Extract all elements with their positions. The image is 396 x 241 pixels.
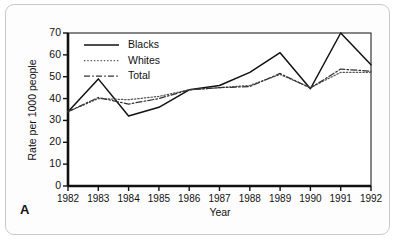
x-axis-tick-label: 1984 xyxy=(112,193,146,204)
y-axis-tick-label: 0 xyxy=(35,179,61,191)
legend-label-blacks: Blacks xyxy=(128,38,159,50)
x-axis-tick-label: 1989 xyxy=(263,193,297,204)
x-axis-tick-label: 1987 xyxy=(203,193,237,204)
y-axis-tick-label: 40 xyxy=(35,92,61,104)
plot-frame xyxy=(68,33,371,186)
x-axis-tick-label: 1990 xyxy=(293,193,327,204)
y-axis-tick-label: 30 xyxy=(35,113,61,125)
x-axis-tick-label: 1982 xyxy=(51,193,85,204)
y-axis-tick-label: 50 xyxy=(35,70,61,82)
x-axis-title: Year xyxy=(60,206,380,218)
x-axis-tick-label: 1985 xyxy=(142,193,176,204)
x-axis-tick-label: 1988 xyxy=(233,193,267,204)
y-axis-tick-label: 70 xyxy=(35,26,61,38)
legend-label-total: Total xyxy=(128,69,150,81)
y-axis-tick-label: 60 xyxy=(35,48,61,60)
axis-group xyxy=(63,33,371,191)
y-axis-tick-label: 10 xyxy=(35,157,61,169)
x-axis-tick-label: 1992 xyxy=(354,193,388,204)
x-axis-tick-label: 1983 xyxy=(81,193,115,204)
panel-label: A xyxy=(20,202,30,217)
x-axis-tick-label: 1991 xyxy=(324,193,358,204)
legend-label-whites: Whites xyxy=(128,54,160,66)
x-axis-tick-label: 1986 xyxy=(172,193,206,204)
line-chart: Rate per 1000 people Year 01020304050607… xyxy=(0,0,396,241)
y-axis-tick-label: 20 xyxy=(35,135,61,147)
